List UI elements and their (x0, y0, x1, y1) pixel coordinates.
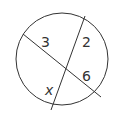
label-6: 6 (82, 68, 91, 84)
label-2: 2 (82, 34, 91, 50)
label-x: x (44, 82, 54, 98)
chord-diagram: 3 2 6 x (0, 0, 124, 118)
chord-2 (51, 16, 85, 110)
label-3: 3 (41, 34, 50, 50)
